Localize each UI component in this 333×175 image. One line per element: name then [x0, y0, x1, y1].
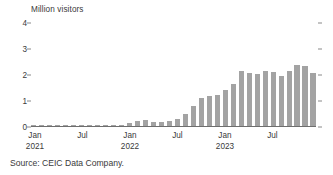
bar — [310, 73, 315, 126]
bar — [271, 72, 276, 126]
y-axis-tick-mark — [27, 49, 31, 50]
bar — [287, 71, 292, 126]
x-axis-month: Jul — [267, 131, 277, 140]
bar — [263, 71, 268, 126]
bar — [247, 73, 252, 126]
plot-area — [31, 22, 316, 127]
chart-container: Million visitors 01234 Jan2021JulJan2022… — [0, 0, 333, 175]
y-axis-title: Million visitors — [31, 5, 84, 14]
bar — [175, 119, 180, 126]
bar — [215, 95, 220, 126]
bar — [231, 84, 236, 126]
right-axis-tick-mark — [318, 75, 322, 76]
x-axis-tick-label: Jan2021 — [26, 131, 44, 152]
bar — [302, 66, 307, 126]
x-axis-year: 2023 — [216, 142, 234, 153]
x-axis-month: Jul — [77, 131, 87, 140]
x-axis-tick-label: Jan2023 — [216, 131, 234, 152]
bar — [191, 106, 196, 126]
bar — [207, 96, 212, 126]
y-axis-tick-mark — [27, 75, 31, 76]
y-axis-tick-mark — [27, 23, 31, 24]
y-axis-tick-mark — [27, 127, 31, 128]
x-axis-tick-label: Jul — [172, 131, 182, 142]
x-axis-line — [31, 126, 316, 127]
right-axis-tick-mark — [318, 23, 322, 24]
x-axis-month: Jul — [172, 131, 182, 140]
x-axis-year: 2022 — [121, 142, 139, 153]
right-axis-tick-mark — [318, 127, 322, 128]
bar — [223, 90, 228, 126]
y-axis-tick-label: 0 — [0, 123, 27, 132]
y-axis-tick-label: 1 — [0, 97, 27, 106]
x-axis-year: 2021 — [26, 142, 44, 153]
x-axis-tick-label: Jul — [267, 131, 277, 142]
source-note: Source: CEIC Data Company. — [10, 158, 124, 168]
right-axis-tick-mark — [318, 101, 322, 102]
bar — [239, 71, 244, 126]
bar — [183, 114, 188, 126]
y-axis-tick-mark — [27, 101, 31, 102]
bar — [199, 98, 204, 126]
bar — [294, 65, 299, 126]
x-axis-tick-label: Jul — [77, 131, 87, 142]
y-axis-tick-label: 4 — [0, 19, 27, 28]
y-axis-tick-label: 2 — [0, 71, 27, 80]
y-axis-tick-label: 3 — [0, 45, 27, 54]
bar — [279, 76, 284, 126]
right-axis-tick-mark — [318, 49, 322, 50]
x-axis-month: Jan — [28, 131, 41, 140]
bar-series — [31, 22, 316, 126]
x-axis-month: Jan — [218, 131, 231, 140]
x-axis-month: Jan — [123, 131, 136, 140]
bar — [255, 74, 260, 126]
x-axis-tick-label: Jan2022 — [121, 131, 139, 152]
